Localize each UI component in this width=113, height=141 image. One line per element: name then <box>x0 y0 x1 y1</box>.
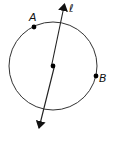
line-l-lower <box>39 66 55 128</box>
line-l <box>52 4 65 66</box>
point-b <box>94 74 99 79</box>
point-a-label: A <box>28 11 37 24</box>
geometry-figure: A B ℓ <box>0 0 113 141</box>
point-a <box>32 25 37 30</box>
center-point <box>51 64 56 69</box>
point-b-label: B <box>99 72 107 85</box>
line-l-label: ℓ <box>68 2 74 15</box>
